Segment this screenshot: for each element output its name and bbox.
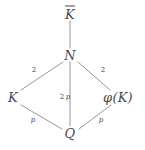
node-phi-k-suffix: ) [128,90,133,105]
node-q: Q [65,127,76,140]
lattice-diagram: K N K φ(K) Q 2 2 2p p p [0,0,145,150]
edge-label-n-q: 2p [60,94,70,101]
edge-line-n-k [21,62,63,90]
edge-line-phik-q [79,105,111,129]
edge-label-k-q: p [31,117,35,124]
node-q-label: Q [65,126,76,141]
node-k-bar: K [65,6,75,21]
edge-label-n-phik: 2 [101,67,105,74]
edge-line-k-q [21,105,62,129]
edge-label-k-q-text: p [31,116,35,124]
node-n-label: N [64,48,76,63]
node-phi-k-prefix: φ( [103,90,118,105]
edge-label-n-q-var: p [66,93,70,101]
edge-label-phik-q-text: p [99,116,103,124]
edge-label-n-phik-text: 2 [101,66,105,74]
node-phi-k-inner: K [118,90,128,105]
node-k: K [8,91,18,104]
edge-label-n-k: 2 [32,67,36,74]
node-k-label: K [8,90,18,105]
edge-label-phik-q: p [99,117,103,124]
node-k-bar-label: K [65,6,75,21]
node-n: N [64,49,76,62]
edge-label-n-q-mult: 2 [60,93,64,101]
edge-label-n-k-text: 2 [32,66,36,74]
node-phi-k: φ(K) [103,91,133,104]
